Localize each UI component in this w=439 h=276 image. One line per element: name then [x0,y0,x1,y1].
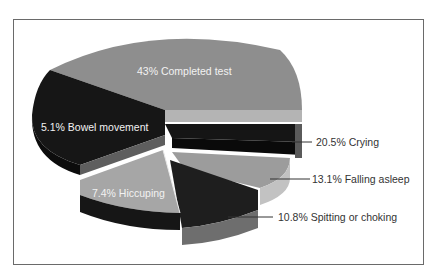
label-hiccuping: 7.4% Hiccuping [92,188,165,199]
label-completed-test: 43% Completed test [137,66,232,77]
label-crying: 20.5% Crying [316,137,379,148]
label-spitting-choking: 10.8% Spitting or choking [278,212,397,223]
label-falling-asleep: 13.1% Falling asleep [312,174,409,185]
label-bowel-movement: 5.1% Bowel movement [41,122,148,133]
